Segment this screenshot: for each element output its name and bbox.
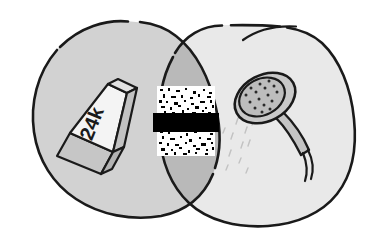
redaction-bar	[153, 113, 219, 132]
censored-block-icon	[153, 86, 219, 156]
illustration-canvas: 24k	[0, 0, 367, 237]
venn-diagram: 24k	[0, 0, 367, 237]
